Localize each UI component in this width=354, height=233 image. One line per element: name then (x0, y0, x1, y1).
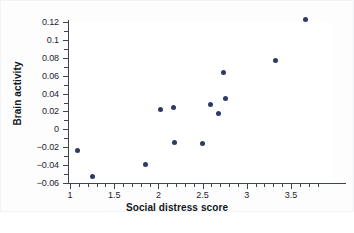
x-axis-tick (114, 184, 115, 189)
x-axis-tick-label: 1.5 (108, 190, 121, 200)
y-axis-tick-label: 0.06 (42, 71, 59, 81)
x-axis-tick (247, 184, 248, 189)
x-axis-minor-tick (264, 184, 265, 187)
y-axis-tick (63, 76, 68, 77)
y-axis-tick (63, 40, 68, 41)
x-axis-minor-tick (211, 184, 212, 187)
y-axis-tick (63, 183, 68, 184)
y-axis-minor-tick (64, 174, 68, 175)
data-point (208, 102, 213, 107)
x-axis-tick-label: 3 (244, 190, 249, 200)
data-point (216, 111, 221, 116)
data-point (90, 174, 95, 179)
y-axis-tick-label: 0 (54, 124, 59, 134)
y-axis-tick-label: −0.04 (37, 160, 59, 170)
x-axis-tick-label: 2 (156, 190, 161, 200)
y-axis-minor-tick (64, 120, 68, 121)
y-axis-tick-label: −0.06 (37, 178, 59, 188)
y-axis-minor-tick (64, 156, 68, 157)
y-axis-tick (63, 129, 68, 130)
y-axis-minor-tick (64, 103, 68, 104)
x-axis-minor-tick (105, 184, 106, 187)
data-point (303, 17, 308, 22)
x-axis-minor-tick (79, 184, 80, 187)
y-axis-tick-label: 0.12 (42, 17, 59, 27)
x-axis-minor-tick (238, 184, 239, 187)
y-axis-line (68, 20, 69, 184)
x-axis-minor-tick (273, 184, 274, 187)
x-axis-tick-label: 2.5 (196, 190, 209, 200)
x-axis-minor-tick (176, 184, 177, 187)
x-axis-tick (203, 184, 204, 189)
x-axis-minor-tick (167, 184, 168, 187)
x-axis-minor-tick (256, 184, 257, 187)
x-axis-line (68, 183, 346, 184)
y-axis-minor-tick (64, 138, 68, 139)
scatter-plot-figure: 0.120.10.080.060.040.020−0.02−0.04−0.061… (0, 0, 354, 233)
y-axis-tick (63, 58, 68, 59)
data-point (221, 70, 226, 75)
plot-area (68, 22, 332, 183)
x-axis-tick (291, 184, 292, 189)
x-axis-tick (158, 184, 159, 189)
x-axis-minor-tick (309, 184, 310, 187)
y-axis-tick (63, 22, 68, 23)
x-axis-tick-label: 3.5 (285, 190, 298, 200)
y-axis-tick (63, 165, 68, 166)
x-axis-tick-label: 1 (67, 190, 72, 200)
data-point (158, 107, 163, 112)
data-point (223, 96, 228, 101)
x-axis-minor-tick (123, 184, 124, 187)
y-axis-minor-tick (64, 67, 68, 68)
x-axis-minor-tick (282, 184, 283, 187)
y-axis-minor-tick (64, 85, 68, 86)
x-axis-minor-tick (220, 184, 221, 187)
x-axis-minor-tick (300, 184, 301, 187)
x-axis-minor-tick (229, 184, 230, 187)
y-axis-tick-label: 0.04 (42, 89, 59, 99)
y-axis-tick-label: −0.02 (37, 142, 59, 152)
x-axis-minor-tick (150, 184, 151, 187)
x-axis-minor-tick (318, 184, 319, 187)
y-axis-tick (63, 111, 68, 112)
x-axis-tick (70, 184, 71, 189)
data-point (143, 162, 148, 167)
y-axis-title: Brain activity (12, 39, 23, 149)
y-axis-tick (63, 147, 68, 148)
x-axis-minor-tick (194, 184, 195, 187)
x-axis-minor-tick (141, 184, 142, 187)
x-axis-minor-tick (132, 184, 133, 187)
x-axis-minor-tick (97, 184, 98, 187)
y-axis-tick (63, 94, 68, 95)
y-axis-minor-tick (64, 49, 68, 50)
y-axis-tick-label: 0.1 (47, 35, 59, 45)
y-axis-tick-label: 0.02 (42, 106, 59, 116)
x-axis-minor-tick (88, 184, 89, 187)
x-axis-minor-tick (185, 184, 186, 187)
y-axis-tick-label: 0.08 (42, 53, 59, 63)
y-axis-minor-tick (64, 31, 68, 32)
x-axis-title: Social distress score (0, 202, 354, 213)
